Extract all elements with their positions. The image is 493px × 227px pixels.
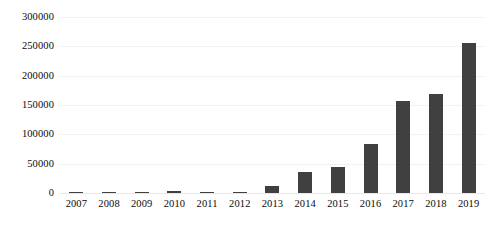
- bar-slot-2010: [158, 17, 191, 193]
- bar-slot-2019: [452, 17, 485, 193]
- bar-slot-2012: [223, 17, 256, 193]
- bar-slot-2017: [387, 17, 420, 193]
- gridline-0: [60, 193, 485, 194]
- bar-2016[interactable]: [364, 144, 378, 193]
- x-axis-tick-label: 2014: [289, 197, 322, 213]
- bar-2018[interactable]: [429, 94, 443, 193]
- bar-series: [60, 17, 485, 193]
- y-axis-tick-label: 0: [0, 188, 54, 199]
- bar-2010[interactable]: [167, 191, 181, 193]
- bar-slot-2007: [60, 17, 93, 193]
- x-axis-tick-label: 2012: [223, 197, 256, 213]
- bar-2014[interactable]: [298, 172, 312, 193]
- bar-slot-2008: [93, 17, 126, 193]
- bar-slot-2015: [322, 17, 355, 193]
- y-axis-tick-label: 250000: [0, 41, 54, 52]
- bar-slot-2018: [420, 17, 453, 193]
- y-axis-tick-label: 300000: [0, 12, 54, 23]
- x-axis-tick-label: 2013: [256, 197, 289, 213]
- plot-area: [60, 17, 485, 193]
- x-axis-tick-label: 2007: [60, 197, 93, 213]
- bar-slot-2013: [256, 17, 289, 193]
- bar-2015[interactable]: [331, 167, 345, 193]
- bar-2013[interactable]: [265, 186, 279, 193]
- bar-slot-2014: [289, 17, 322, 193]
- y-axis-tick-label: 50000: [0, 159, 54, 170]
- bar-slot-2009: [125, 17, 158, 193]
- bar-2009[interactable]: [135, 192, 149, 193]
- y-axis-tick-label: 200000: [0, 71, 54, 82]
- x-axis-tick-label: 2009: [125, 197, 158, 213]
- x-axis-tick-label: 2018: [420, 197, 453, 213]
- x-axis-tick-label: 2011: [191, 197, 224, 213]
- y-axis-tick-label: 150000: [0, 100, 54, 111]
- bar-chart: 050000100000150000200000250000300000 200…: [0, 0, 493, 227]
- bar-2011[interactable]: [200, 192, 214, 193]
- x-axis: 2007200820092010201120122013201420152016…: [60, 197, 485, 213]
- x-axis-tick-label: 2008: [93, 197, 126, 213]
- x-axis-tick-label: 2017: [387, 197, 420, 213]
- x-axis-tick-label: 2015: [322, 197, 355, 213]
- y-axis: 050000100000150000200000250000300000: [0, 0, 54, 227]
- x-axis-tick-label: 2016: [354, 197, 387, 213]
- bar-2019[interactable]: [462, 43, 476, 193]
- x-axis-tick-label: 2010: [158, 197, 191, 213]
- y-axis-tick-label: 100000: [0, 129, 54, 140]
- bar-2008[interactable]: [102, 192, 116, 193]
- bar-2017[interactable]: [396, 101, 410, 193]
- x-axis-tick-label: 2019: [452, 197, 485, 213]
- bar-slot-2011: [191, 17, 224, 193]
- bar-2007[interactable]: [69, 192, 83, 193]
- bar-2012[interactable]: [233, 192, 247, 193]
- bar-slot-2016: [354, 17, 387, 193]
